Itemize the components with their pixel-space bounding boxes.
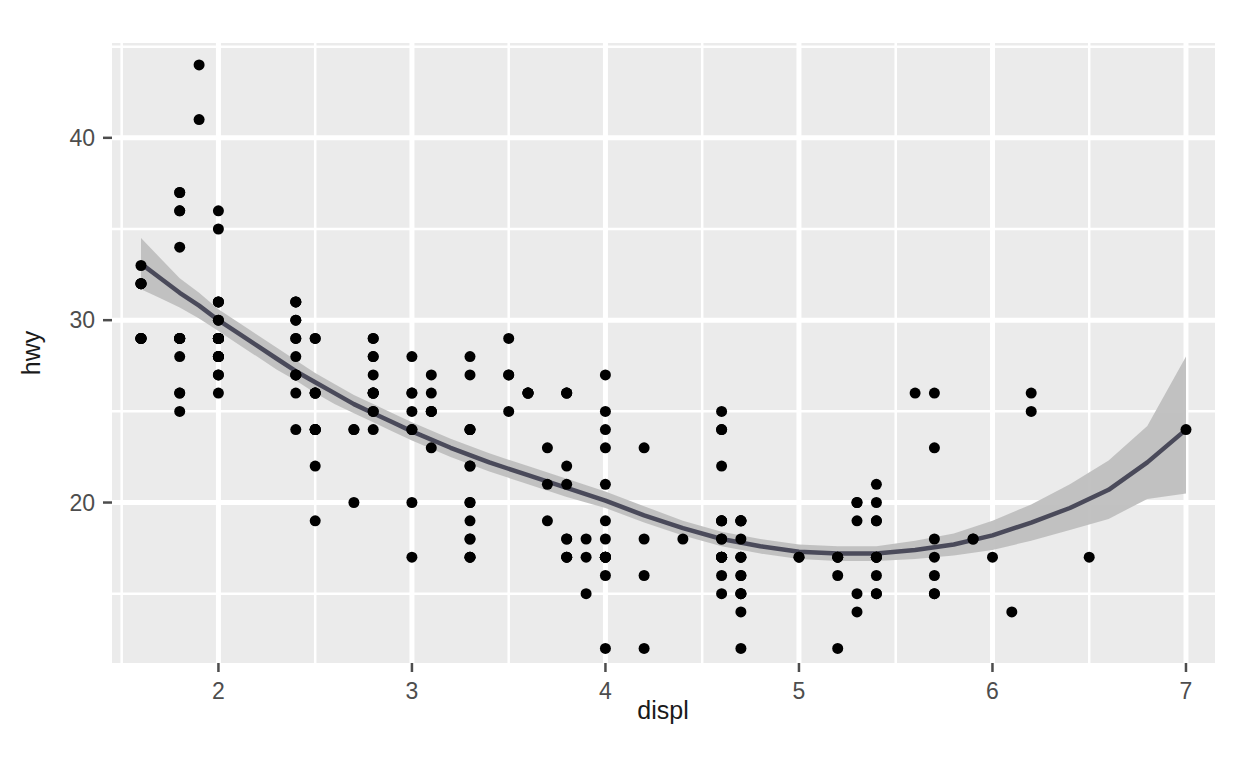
- data-point: [542, 515, 553, 526]
- data-point: [716, 588, 727, 599]
- data-point: [465, 552, 476, 563]
- x-axis-title: displ: [637, 696, 688, 724]
- data-point: [194, 114, 205, 125]
- data-point: [1026, 406, 1037, 417]
- data-point: [213, 351, 224, 362]
- x-tick-label: 2: [212, 678, 225, 704]
- data-point: [426, 369, 437, 380]
- data-point: [832, 552, 843, 563]
- data-point: [929, 442, 940, 453]
- data-point: [465, 461, 476, 472]
- data-point: [503, 333, 514, 344]
- data-point: [561, 388, 572, 399]
- data-point: [406, 388, 417, 399]
- data-point: [871, 570, 882, 581]
- data-point: [600, 515, 611, 526]
- data-point: [406, 552, 417, 563]
- data-point: [174, 351, 185, 362]
- data-point: [465, 497, 476, 508]
- data-point: [871, 479, 882, 490]
- data-point: [871, 497, 882, 508]
- data-point: [852, 606, 863, 617]
- data-point: [465, 369, 476, 380]
- data-point: [174, 333, 185, 344]
- y-tick-label: 20: [69, 490, 95, 516]
- data-point: [136, 260, 147, 271]
- data-point: [310, 424, 321, 435]
- data-point: [523, 388, 534, 399]
- data-point: [987, 552, 998, 563]
- data-point: [406, 351, 417, 362]
- data-point: [639, 442, 650, 453]
- data-point: [290, 369, 301, 380]
- data-point: [929, 570, 940, 581]
- data-point: [465, 534, 476, 545]
- data-point: [852, 497, 863, 508]
- data-point: [368, 369, 379, 380]
- data-point: [290, 296, 301, 307]
- data-point: [871, 588, 882, 599]
- y-axis-title: hwy: [17, 330, 45, 375]
- data-point: [871, 552, 882, 563]
- data-point: [174, 242, 185, 253]
- data-point: [290, 388, 301, 399]
- x-tick-label: 7: [1180, 678, 1193, 704]
- data-point: [406, 424, 417, 435]
- x-tick-label: 3: [406, 678, 419, 704]
- data-point: [426, 388, 437, 399]
- data-point: [600, 552, 611, 563]
- data-point: [735, 552, 746, 563]
- data-point: [600, 570, 611, 581]
- data-point: [1181, 424, 1192, 435]
- data-point: [290, 315, 301, 326]
- data-point: [581, 552, 592, 563]
- data-point: [213, 315, 224, 326]
- data-point: [735, 606, 746, 617]
- data-point: [600, 479, 611, 490]
- data-point: [1006, 606, 1017, 617]
- data-point: [735, 643, 746, 654]
- data-point: [310, 515, 321, 526]
- data-point: [136, 278, 147, 289]
- data-point: [929, 534, 940, 545]
- data-point: [406, 497, 417, 508]
- data-point: [368, 424, 379, 435]
- data-point: [968, 534, 979, 545]
- data-point: [194, 59, 205, 70]
- data-point: [677, 534, 688, 545]
- data-point: [368, 351, 379, 362]
- data-point: [852, 588, 863, 599]
- data-point: [600, 369, 611, 380]
- data-point: [368, 388, 379, 399]
- data-point: [561, 479, 572, 490]
- data-point: [213, 224, 224, 235]
- data-point: [213, 333, 224, 344]
- data-point: [600, 534, 611, 545]
- data-point: [1026, 388, 1037, 399]
- data-point: [136, 333, 147, 344]
- data-point: [465, 515, 476, 526]
- y-tick-label: 30: [69, 307, 95, 333]
- data-point: [716, 570, 727, 581]
- data-point: [561, 534, 572, 545]
- data-point: [716, 534, 727, 545]
- data-point: [465, 424, 476, 435]
- data-point: [213, 205, 224, 216]
- y-tick-label: 40: [69, 125, 95, 151]
- scatter-plot-svg: 234567 203040 displ hwy: [0, 0, 1259, 760]
- data-point: [174, 406, 185, 417]
- x-tick-label: 6: [986, 678, 999, 704]
- data-point: [290, 333, 301, 344]
- data-point: [561, 552, 572, 563]
- data-point: [213, 388, 224, 399]
- data-point: [426, 442, 437, 453]
- data-point: [639, 534, 650, 545]
- data-point: [406, 406, 417, 417]
- data-point: [368, 333, 379, 344]
- data-point: [735, 570, 746, 581]
- data-point: [174, 388, 185, 399]
- data-point: [600, 406, 611, 417]
- data-point: [503, 369, 514, 380]
- data-point: [716, 424, 727, 435]
- data-point: [832, 570, 843, 581]
